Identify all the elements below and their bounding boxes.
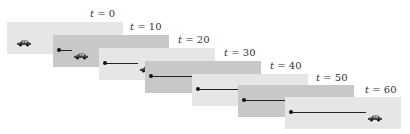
time-label: t = 20 <box>178 34 210 45</box>
time-label: t = 10 <box>130 21 162 32</box>
displacement-line <box>106 63 138 64</box>
displacement-line <box>60 50 72 51</box>
time-label: t = 0 <box>90 8 115 19</box>
time-label: t = 60 <box>365 84 397 95</box>
time-label: t = 50 <box>316 72 348 83</box>
frame-panel-t60 <box>285 97 401 129</box>
displacement-line <box>292 112 366 113</box>
car-icon <box>73 45 89 53</box>
car-icon <box>367 107 383 115</box>
time-label: t = 40 <box>270 60 302 71</box>
car-icon <box>16 32 32 40</box>
time-label: t = 30 <box>224 47 256 58</box>
